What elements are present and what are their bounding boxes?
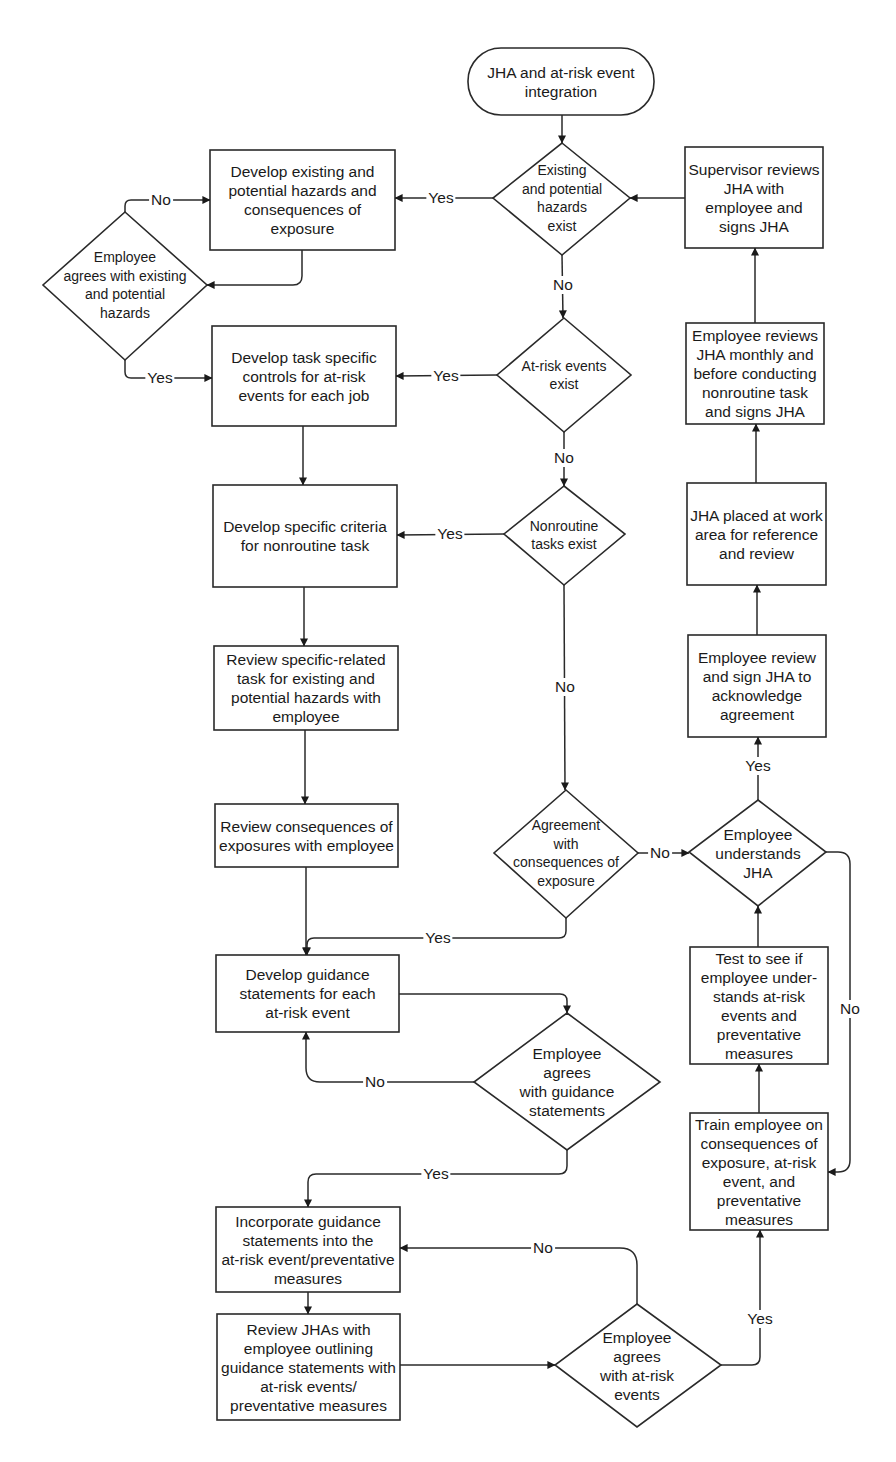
- edge-develop-hazards-to-agrees: [207, 250, 302, 285]
- process-develop-criteria: Develop specific criteria for nonroutine…: [215, 487, 395, 585]
- edge-guidance-no: [306, 1032, 474, 1082]
- edge-label-atrisk-yes: Yes: [431, 367, 460, 385]
- edge-label-atrisk-no: No: [552, 449, 576, 467]
- flowchart-canvas: JHA and at-risk event integration Existi…: [0, 0, 896, 1462]
- process-review-consequences: Review consequences of exposures with em…: [216, 805, 397, 866]
- edge-guidance-to-agrees: [399, 994, 567, 1013]
- process-develop-hazards: Develop existing and potential hazards a…: [212, 152, 393, 248]
- edge-label-consequences-yes: Yes: [423, 929, 452, 947]
- decision-agreement-consequences: Agreement with consequences of exposure: [496, 810, 636, 896]
- decision-agrees-atrisk: Employee agrees with at-risk events: [570, 1322, 704, 1410]
- edge-label-guidance-no: No: [363, 1073, 387, 1091]
- edge-label-atrisk-agree-yes: Yes: [745, 1310, 774, 1328]
- edge-label-agrees-hazards-yes: Yes: [145, 369, 174, 387]
- process-employee-reviews-monthly: Employee reviews JHA monthly and before …: [687, 324, 823, 423]
- process-supervisor-reviews: Supervisor reviews JHA with employee and…: [686, 148, 822, 247]
- edge-label-consequences-no: No: [648, 844, 672, 862]
- decision-atrisk-exist: At-risk events exist: [505, 345, 623, 405]
- edge-label-nonroutine-no: No: [553, 678, 577, 696]
- start-terminator: JHA and at-risk event integration: [468, 48, 654, 115]
- edge-atrisk-agree-no: [400, 1248, 637, 1304]
- edge-label-guidance-yes: Yes: [421, 1165, 450, 1183]
- process-test-employee: Test to see if employee under- stands at…: [691, 948, 827, 1063]
- edge-label-hazards-no: No: [551, 276, 575, 294]
- process-incorporate-guidance: Incorporate guidance statements into the…: [217, 1208, 399, 1291]
- decision-agrees-guidance: Employee agrees with guidance statements: [490, 1036, 644, 1128]
- decision-understands-jha: Employee understands JHA: [700, 822, 816, 884]
- edge-label-agrees-hazards-no: No: [149, 191, 173, 209]
- edge-label-understands-yes: Yes: [743, 757, 772, 775]
- edge-label-nonroutine-yes: Yes: [435, 525, 464, 543]
- decision-employee-agrees-hazards: Employee agrees with existing and potent…: [45, 235, 205, 335]
- process-jha-placed: JHA placed at work area for reference an…: [688, 484, 825, 584]
- decision-hazards-exist: Existing and potential hazards exist: [500, 150, 624, 246]
- process-develop-guidance: Develop guidance statements for each at-…: [218, 956, 397, 1031]
- process-review-jhas: Review JHAs with employee outlining guid…: [218, 1315, 399, 1419]
- process-employee-review-sign: Employee review and sign JHA to acknowle…: [689, 636, 825, 736]
- decision-nonroutine-exist: Nonroutine tasks exist: [510, 510, 618, 560]
- edge-label-hazards-yes: Yes: [426, 189, 455, 207]
- edge-label-atrisk-agree-no: No: [531, 1239, 555, 1257]
- edge-atrisk-agree-yes: [721, 1230, 760, 1365]
- process-train-employee: Train employee on consequences of exposu…: [691, 1114, 827, 1229]
- edge-label-understands-no: No: [838, 1000, 862, 1018]
- process-develop-controls: Develop task specific controls for at-ri…: [214, 328, 394, 424]
- process-review-specific: Review specific-related task for existin…: [216, 647, 396, 729]
